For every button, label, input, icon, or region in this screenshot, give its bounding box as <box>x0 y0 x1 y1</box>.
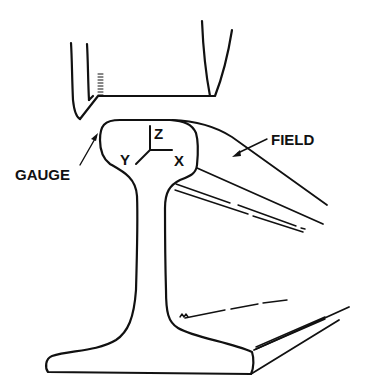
wheel <box>71 21 232 119</box>
x-axis-label: X <box>174 152 184 169</box>
rail-profile <box>46 120 253 374</box>
rail-diagram-svg: GAUGE FIELD Z Y X <box>0 0 367 389</box>
y-axis-line <box>136 150 150 164</box>
gauge-label: GAUGE <box>15 166 70 183</box>
flange-hatch <box>98 74 103 95</box>
rail-diagram: GAUGE FIELD Z Y X <box>0 0 367 389</box>
gauge-arrowhead-icon <box>91 133 98 141</box>
field-arrowhead-icon <box>232 150 241 157</box>
rail-length-hidden <box>175 184 325 349</box>
z-axis-label: Z <box>154 125 163 142</box>
y-axis-label: Y <box>120 151 130 168</box>
field-label: FIELD <box>271 131 314 148</box>
gauge-leader <box>80 137 96 165</box>
